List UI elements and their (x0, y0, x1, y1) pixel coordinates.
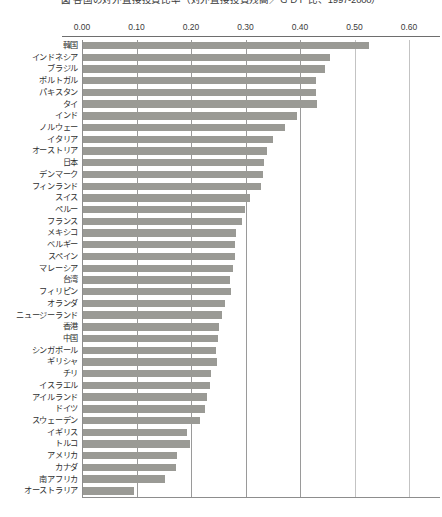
bar-row: メキシコ (0, 227, 442, 238)
bar (83, 112, 297, 119)
bar-row-label: ペルー (55, 204, 78, 215)
x-axis-tick-0-00: 0.00 (74, 21, 91, 34)
bar (83, 393, 207, 400)
bar (83, 347, 216, 354)
bar (83, 194, 250, 201)
bar (83, 218, 242, 225)
bar-row-label: スウェーデン (32, 415, 78, 426)
bar-row-label: フィンランド (32, 181, 78, 192)
bar (83, 440, 190, 447)
bar-row: 日本 (0, 157, 442, 168)
bar (83, 323, 219, 330)
bar-row-label: 韓国 (63, 40, 78, 51)
bar-row-label: スイス (55, 192, 78, 203)
x-axis-tick-0-10: 0.10 (128, 21, 145, 34)
bar-row: パキスタン (0, 87, 442, 98)
bar (83, 300, 225, 307)
bar (83, 42, 369, 49)
bar (83, 65, 325, 72)
bar-row: オランダ (0, 298, 442, 309)
bar-row-label: タイ (63, 99, 78, 110)
x-axis-tick-labels: 0.000.100.200.300.400.500.60 (0, 21, 442, 34)
bar-row: オーストリア (0, 145, 442, 156)
bar (83, 159, 264, 166)
bar-row: ドイツ (0, 403, 442, 414)
bar-row-label: 台湾 (63, 274, 78, 285)
bar-row-label: フランス (47, 216, 78, 227)
bar (83, 171, 263, 178)
bar-row-label: ノルウェー (39, 122, 78, 133)
bar (83, 89, 316, 96)
bar-row: スペイン (0, 251, 442, 262)
bar (83, 229, 236, 236)
bar (83, 265, 233, 272)
bar (83, 487, 134, 494)
bar (83, 276, 230, 283)
bar-row: インド (0, 110, 442, 121)
bar (83, 206, 245, 213)
bar-row: ギリシャ (0, 356, 442, 367)
bar-row-label: ニュージーランド (16, 310, 78, 321)
bar-row: イギリス (0, 427, 442, 438)
bar-row-label: イタリア (47, 134, 78, 145)
bar (83, 147, 267, 154)
bar-row: ポルトガル (0, 75, 442, 86)
bar-row-label: ブラジル (47, 63, 78, 74)
bar-row: 香港 (0, 321, 442, 332)
bar-row: フィリピン (0, 286, 442, 297)
bar-row: インドネシア (0, 52, 442, 63)
bar-row: アイルランド (0, 392, 442, 403)
bar-row-label: イスラエル (39, 380, 78, 391)
bar-row-label: 日本 (63, 157, 78, 168)
x-axis-tick-0-60: 0.60 (401, 21, 418, 34)
bar (83, 405, 205, 412)
bar-row-label: チリ (63, 368, 78, 379)
bar (83, 417, 200, 424)
bar-row: ニュージーランド (0, 310, 442, 321)
bar-row: ノルウェー (0, 122, 442, 133)
bar-row-label: パキスタン (39, 87, 78, 98)
x-axis-tick-0-40: 0.40 (292, 21, 309, 34)
bar (83, 429, 187, 436)
bar-row: ブラジル (0, 63, 442, 74)
bar (83, 241, 235, 248)
x-axis-tick-0-20: 0.20 (183, 21, 200, 34)
bar-row: トルコ (0, 438, 442, 449)
bar-row: ベルギー (0, 239, 442, 250)
bar-row-label: アイルランド (32, 392, 78, 403)
bar-row-label: オランダ (47, 298, 78, 309)
bar-chart-figure: 図 各国の対外直接投資比率（対外直接投資残高／ＧＤＰ比、1997-2000） 0… (0, 0, 442, 517)
bar (83, 452, 177, 459)
bar-row-label: 南アフリカ (39, 474, 78, 485)
bar (83, 335, 218, 342)
bar-row: 南アフリカ (0, 474, 442, 485)
bar-row: イタリア (0, 134, 442, 145)
axis-bottom-rule (82, 497, 440, 498)
bar-row: シンガポール (0, 345, 442, 356)
bar-row: イスラエル (0, 380, 442, 391)
bar (83, 183, 261, 190)
bar-row-label: 香港 (63, 321, 78, 332)
bar-row: 韓国 (0, 40, 442, 51)
bar-row-label: 中国 (63, 333, 78, 344)
bar-row: 中国 (0, 333, 442, 344)
bar-row-label: オーストリア (32, 145, 78, 156)
bar-row-label: メキシコ (47, 227, 78, 238)
bar-rows: 韓国インドネシアブラジルポルトガルパキスタンタイインドノルウェーイタリアオースト… (0, 40, 442, 497)
bar (83, 464, 176, 471)
bar-row-label: インドネシア (32, 52, 78, 63)
bar (83, 358, 217, 365)
bar (83, 288, 231, 295)
bar (83, 370, 211, 377)
bar-row-label: トルコ (55, 438, 78, 449)
bar-row: フィンランド (0, 181, 442, 192)
bar (83, 100, 317, 107)
bar (83, 77, 316, 84)
bar (83, 54, 330, 61)
bar-row: ペルー (0, 204, 442, 215)
bar-row: スイス (0, 192, 442, 203)
x-axis-tick-0-50: 0.50 (346, 21, 363, 34)
bar-row: デンマーク (0, 169, 442, 180)
bar-row-label: オーストラリア (24, 485, 78, 496)
bar-row-label: ポルトガル (39, 75, 78, 86)
